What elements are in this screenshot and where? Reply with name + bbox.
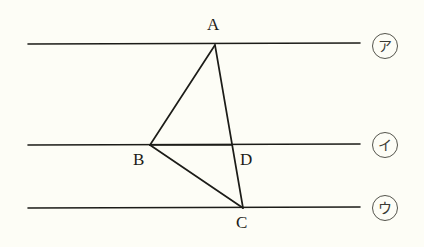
vertex-label-d: D: [240, 151, 252, 168]
circled-katakana-a-badge: ア: [372, 33, 398, 59]
parallel-lines-group: [28, 43, 360, 208]
line-a: [28, 43, 360, 44]
vertex-label-a: A: [207, 16, 219, 33]
segment-AB: [150, 45, 215, 145]
geometry-figure: ABCD アイウ: [0, 0, 424, 247]
vertex-label-c: C: [236, 214, 248, 231]
segment-BC: [150, 145, 243, 208]
triangle-group: [150, 45, 243, 208]
geometry-canvas: [0, 0, 424, 247]
line-u: [28, 207, 360, 208]
circled-katakana-i-badge: イ: [372, 132, 398, 158]
circled-katakana-u-glyph: ウ: [378, 201, 392, 215]
segment-AC: [215, 45, 243, 208]
circled-katakana-a-glyph: ア: [378, 39, 392, 53]
circled-katakana-i-glyph: イ: [378, 138, 392, 152]
vertex-label-b: B: [133, 151, 145, 168]
circled-katakana-u-badge: ウ: [372, 195, 398, 221]
